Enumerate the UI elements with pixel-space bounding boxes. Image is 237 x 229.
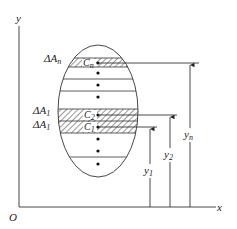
origin-label: O [9,211,17,223]
hatched-strips [55,58,145,157]
area-label-2: ΔA1 [32,104,50,118]
y-axis-label: y [15,12,21,24]
area-label-n: ΔAn [43,52,61,66]
composite-area-diagram: y x O Cn C [0,0,237,229]
area-label-1: ΔA1 [32,118,50,132]
x-axis-label: x [216,201,222,213]
